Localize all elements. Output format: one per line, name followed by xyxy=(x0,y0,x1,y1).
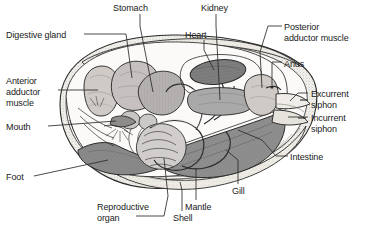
label-anterior-adductor-3: muscle xyxy=(6,98,34,109)
label-anus: Anus xyxy=(284,59,304,70)
label-shell: Shell xyxy=(173,213,193,224)
label-reproductive-organ-2: organ xyxy=(97,213,120,224)
label-excurrent-siphon-2: siphon xyxy=(311,100,337,111)
reproductive-organ xyxy=(136,124,186,170)
label-anterior-adductor-2: adductor xyxy=(6,87,40,98)
label-stomach: Stomach xyxy=(113,3,148,14)
label-kidney: Kidney xyxy=(201,3,228,14)
label-reproductive-organ-1: Reproductive xyxy=(97,202,149,213)
stomach xyxy=(138,71,184,115)
label-incurrent-siphon-2: siphon xyxy=(311,124,337,135)
label-gill: Gill xyxy=(232,186,245,197)
label-heart: Heart xyxy=(185,30,207,41)
label-posterior-adductor-1: Posterior xyxy=(284,22,319,33)
label-digestive-gland: Digestive gland xyxy=(6,30,66,41)
label-excurrent-siphon-1: Excurrent xyxy=(311,89,349,100)
label-posterior-adductor-2: adductor muscle xyxy=(284,33,349,44)
label-incurrent-siphon-1: Incurrent xyxy=(311,113,346,124)
label-mouth: Mouth xyxy=(6,122,31,133)
label-anterior-adductor-1: Anterior xyxy=(6,76,37,87)
label-mantle: Mantle xyxy=(185,202,211,213)
label-intestine: Intestine xyxy=(290,152,323,163)
clam-anatomy-figure: Digestive gland Stomach Kidney Heart Pos… xyxy=(0,0,369,234)
label-foot: Foot xyxy=(6,172,24,183)
